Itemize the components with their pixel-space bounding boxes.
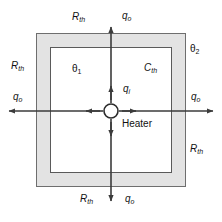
label-inner-temperature: θ1 xyxy=(72,64,81,75)
label-bottom-outflow: qo xyxy=(125,194,134,205)
label-outer-temperature: θ2 xyxy=(190,44,199,55)
label-right-resistance: Rth xyxy=(190,144,203,155)
diagram-canvas xyxy=(0,0,222,222)
label-top-outflow: qo xyxy=(122,11,131,22)
label-top-resistance: Rth xyxy=(72,12,85,23)
label-left-outflow: qo xyxy=(13,92,22,103)
heater-circle-icon xyxy=(104,104,118,118)
thermal-diagram: Rth qo Rth qo qo Rth Rth qo θ2 θ1 Cth qi… xyxy=(0,0,222,222)
label-thermal-capacitance: Cth xyxy=(144,63,157,74)
label-right-outflow: qo xyxy=(191,92,200,103)
label-input-flow: qi xyxy=(123,84,130,95)
label-bottom-resistance: Rth xyxy=(80,194,93,205)
label-heater: Heater xyxy=(122,119,152,129)
label-left-resistance: Rth xyxy=(11,61,24,72)
